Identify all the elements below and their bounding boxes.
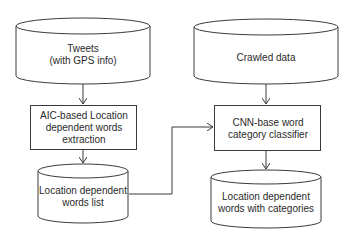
loccat-line-1: Location dependent (222, 191, 310, 203)
cnn-line-1: CNN-base word (232, 117, 303, 129)
crawled-title: Crawled data (237, 52, 296, 64)
aic-line-2: dependent words (46, 122, 123, 134)
loclist-label: Location dependent words list (38, 179, 128, 215)
crawled-label: Crawled data (194, 40, 338, 76)
loccat-label: Location dependent words with categories (211, 185, 321, 221)
aic-line-3: extraction (62, 134, 105, 146)
aic-line-1: AIC-based Location (40, 110, 128, 122)
cnn-line-2: category classifier (228, 129, 308, 141)
tweets-label: Tweets (with GPS info) (16, 38, 150, 72)
loclist-line-1: Location dependent (39, 185, 127, 197)
loccat-line-2: words with categories (218, 203, 314, 215)
loclist-line-2: words list (62, 197, 104, 209)
tweets-title: Tweets (67, 43, 99, 55)
aic-label: AIC-based Location dependent words extra… (31, 106, 137, 150)
tweets-subtitle: (with GPS info) (49, 55, 116, 67)
cnn-label: CNN-base word category classifier (215, 106, 321, 151)
arrow-list-to-cnn (129, 127, 213, 194)
